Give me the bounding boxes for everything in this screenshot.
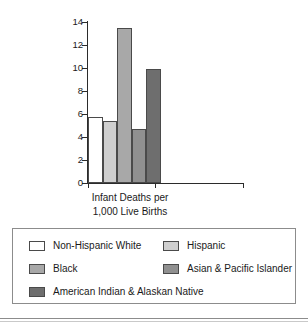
footer-rule-secondary	[0, 321, 308, 322]
legend-item-non-hispanic-white: Non-Hispanic White	[29, 235, 141, 257]
legend-item-american-indian-alaskan-native: American Indian & Alaskan Native	[29, 281, 204, 303]
legend-label-non-hispanic-white: Non-Hispanic White	[53, 240, 141, 252]
footer-rule	[0, 318, 308, 319]
y-tick-label: 2	[78, 153, 83, 166]
legend-label-hispanic: Hispanic	[187, 240, 225, 252]
legend-row-2: Black Asian & Pacific Islander	[13, 258, 295, 280]
infant-mortality-bar-chart: 02468101214 Infant Deaths per 1,000 Live…	[0, 0, 308, 228]
x-axis-label-line-1: Infant Deaths per	[60, 191, 200, 205]
legend-label-black: Black	[53, 263, 77, 275]
chart-legend: Non-Hispanic White Hispanic Black Asian …	[12, 228, 296, 304]
x-axis-line	[87, 183, 244, 184]
y-tick-label: 14	[72, 15, 83, 28]
y-tick-label: 8	[78, 84, 83, 97]
bar-american-indian-alaskan-native	[146, 69, 161, 183]
legend-item-black: Black	[29, 258, 77, 280]
bar-hispanic	[103, 121, 118, 183]
plot-area	[88, 22, 243, 183]
x-axis-label: Infant Deaths per 1,000 Live Births	[60, 191, 200, 219]
x-tick-middle	[155, 184, 156, 188]
legend-row-1: Non-Hispanic White Hispanic	[13, 235, 295, 257]
x-axis-label-line-2: 1,000 Live Births	[60, 205, 200, 219]
bar-asian-pacific-islander	[132, 129, 147, 183]
x-tick-left	[88, 184, 89, 188]
y-tick-label: 4	[78, 130, 83, 143]
bar-black	[117, 28, 132, 183]
legend-row-3: American Indian & Alaskan Native	[13, 281, 295, 303]
y-tick-label: 6	[78, 107, 83, 120]
legend-item-asian-pacific-islander: Asian & Pacific Islander	[163, 258, 292, 280]
legend-swatch-hispanic	[163, 241, 179, 251]
legend-item-hispanic: Hispanic	[163, 235, 225, 257]
x-tick-right	[243, 184, 244, 188]
legend-swatch-american-indian-alaskan-native	[29, 287, 45, 297]
legend-label-american-indian-alaskan-native: American Indian & Alaskan Native	[53, 286, 204, 298]
legend-label-asian-pacific-islander: Asian & Pacific Islander	[187, 263, 292, 275]
y-tick-label: 12	[72, 38, 83, 51]
bar-non-hispanic-white	[88, 117, 103, 183]
legend-swatch-black	[29, 264, 45, 274]
legend-swatch-non-hispanic-white	[29, 241, 45, 251]
y-tick-label: 0	[78, 176, 83, 189]
legend-swatch-asian-pacific-islander	[163, 264, 179, 274]
y-tick-label: 10	[72, 61, 83, 74]
